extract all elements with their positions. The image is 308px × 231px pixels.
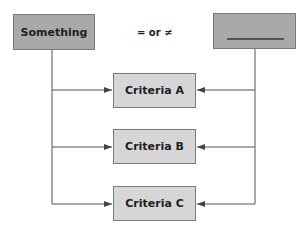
criteria-a-box: Criteria A xyxy=(113,73,196,108)
something-box: Something xyxy=(13,14,95,50)
blank-underline xyxy=(227,38,284,40)
criteria-a-label: Criteria A xyxy=(125,84,184,97)
criteria-c-label: Criteria C xyxy=(125,197,184,210)
relation-label: = or ≠ xyxy=(137,27,173,38)
something-label: Something xyxy=(21,26,88,39)
criteria-b-label: Criteria B xyxy=(125,140,184,153)
blank-box xyxy=(213,13,296,49)
criteria-b-box: Criteria B xyxy=(113,129,196,164)
criteria-c-box: Criteria C xyxy=(113,186,196,221)
